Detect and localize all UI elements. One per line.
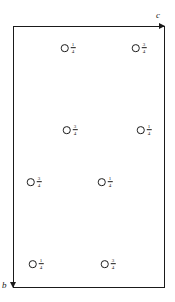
atom-marker: 34 <box>63 124 78 136</box>
atom-open-circle-icon <box>101 260 109 268</box>
axis-arrow-b-icon <box>10 282 16 288</box>
atom-height-fraction: 14 <box>108 176 113 188</box>
fraction-denominator: 4 <box>72 48 75 53</box>
fraction-denominator: 4 <box>112 264 115 269</box>
atom-height-fraction: 34 <box>111 258 116 270</box>
atom-open-circle-icon <box>98 178 106 186</box>
axis-label-b: b <box>2 281 7 290</box>
fraction-denominator: 4 <box>40 264 43 269</box>
fraction-denominator: 4 <box>74 130 77 135</box>
atom-open-circle-icon <box>63 126 71 134</box>
atom-open-circle-icon <box>29 260 37 268</box>
fraction-denominator: 4 <box>148 130 151 135</box>
atom-height-fraction: 14 <box>39 258 44 270</box>
atom-open-circle-icon <box>132 44 140 52</box>
atom-height-fraction: 34 <box>73 124 78 136</box>
atom-height-fraction: 34 <box>37 176 42 188</box>
atom-marker: 34 <box>101 258 116 270</box>
atom-marker: 14 <box>137 124 152 136</box>
axis-label-c: c <box>156 11 160 20</box>
crystal-structure-projection: c b 1434341434141434 <box>0 0 175 302</box>
atom-open-circle-icon <box>27 178 35 186</box>
atom-open-circle-icon <box>137 126 145 134</box>
atom-marker: 14 <box>29 258 44 270</box>
atom-marker: 14 <box>61 42 76 54</box>
atom-open-circle-icon <box>61 44 69 52</box>
fraction-denominator: 4 <box>109 182 112 187</box>
unit-cell-outline <box>13 26 165 288</box>
fraction-denominator: 4 <box>143 48 146 53</box>
atom-height-fraction: 14 <box>147 124 152 136</box>
fraction-denominator: 4 <box>38 182 41 187</box>
atom-height-fraction: 14 <box>71 42 76 54</box>
axis-arrow-c-icon <box>159 23 165 29</box>
atom-height-fraction: 34 <box>142 42 147 54</box>
atom-marker: 34 <box>27 176 42 188</box>
atom-marker: 34 <box>132 42 147 54</box>
atom-marker: 14 <box>98 176 113 188</box>
